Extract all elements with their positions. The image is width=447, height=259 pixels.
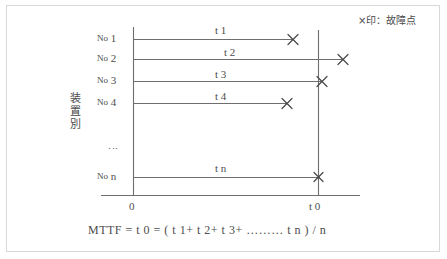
diagram-canvas (0, 0, 447, 259)
figure-root: ×印：故障点 装置別 No 1 No 2 No 3 No 4 No n ⋮ t … (0, 0, 447, 259)
